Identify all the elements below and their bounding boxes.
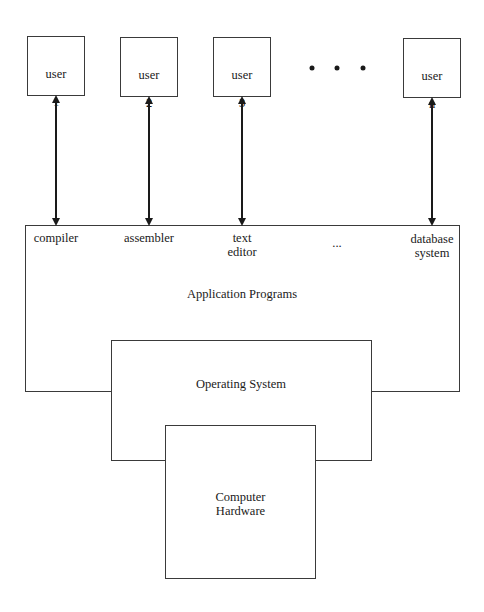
connector-layer — [0, 0, 484, 612]
operating-system-title: Operating System — [141, 377, 341, 391]
app-compiler-label: compiler — [26, 231, 86, 245]
app-assembler-label: assembler — [114, 231, 184, 245]
app-text-editor-label: text editor — [212, 231, 272, 259]
app-database-system-label: database system — [400, 232, 464, 260]
computer-hardware-title: Computer Hardware — [165, 490, 316, 518]
ellipsis-dots-icon — [310, 66, 366, 71]
application-programs-title: Application Programs — [140, 287, 344, 301]
app-ellipsis-label: ... — [317, 236, 357, 250]
